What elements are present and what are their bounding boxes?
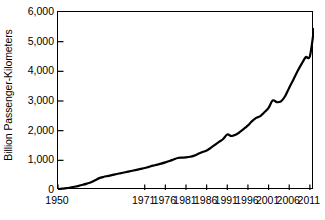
x-axis-ticks: [58, 185, 310, 191]
y-tick-label: 5,000: [6, 35, 54, 47]
y-axis-ticks: [58, 42, 64, 161]
x-tick-label: 2006: [277, 194, 300, 206]
y-tick-label: 1,000: [6, 153, 54, 165]
y-tick-label: 3,000: [6, 94, 54, 106]
x-tick-label: 1950: [45, 194, 68, 206]
plot-svg: [58, 12, 314, 190]
plot-area: [57, 11, 313, 189]
y-tick-label: 2,000: [6, 124, 54, 136]
y-tick-label: 4,000: [6, 64, 54, 76]
y-axis-tick-labels: 01,0002,0003,0004,0005,0006,000: [4, 0, 54, 220]
data-line-series: [58, 29, 314, 189]
x-tick-label: 2011: [298, 194, 321, 206]
line-chart: Billion Passenger-Kilometers 01,0002,000…: [0, 0, 325, 220]
x-axis-tick-labels: 1950197119761981198619911996200120062011: [0, 194, 325, 214]
y-tick-label: 6,000: [6, 5, 54, 17]
